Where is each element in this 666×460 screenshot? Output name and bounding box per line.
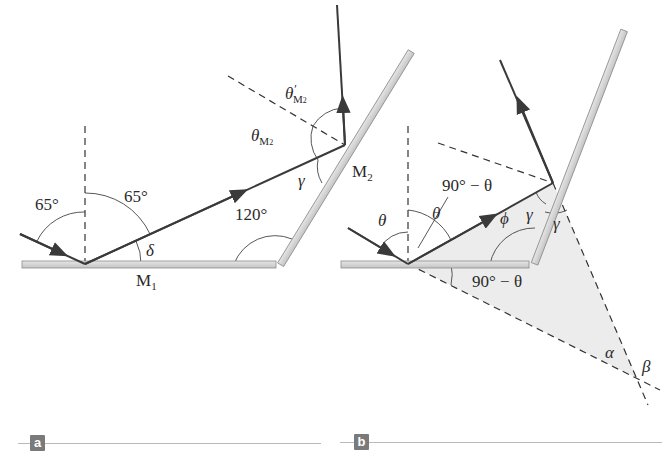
- label-theta-reflected: θ: [432, 205, 440, 222]
- arc-theta-out: [408, 210, 451, 240]
- outgoing-ray-arrow: [343, 104, 345, 145]
- shaded-region: [408, 183, 637, 378]
- arc-theta-m2: [311, 126, 318, 160]
- label-gamma-outer: γ: [553, 215, 560, 232]
- panel-a-rule: [18, 443, 321, 444]
- mirror-m1-subscript: 1: [151, 280, 157, 292]
- mirror-m2-subscript: 2: [367, 171, 373, 183]
- label-gamma-inner: γ: [526, 206, 533, 223]
- mirror-m1-b: [341, 261, 529, 268]
- ray-to-m2-arrow: [85, 193, 240, 264]
- label-gamma: γ: [298, 172, 305, 189]
- arc-incidence: [37, 212, 85, 241]
- label-reflection-angle: 65°: [124, 188, 148, 205]
- theta-m2-subscript: M2: [259, 135, 273, 147]
- outgoing-ray-b-arrow: [520, 104, 553, 183]
- diagram-canvas: [0, 0, 666, 460]
- label-phi: ϕ: [500, 210, 509, 227]
- label-delta: δ: [146, 242, 154, 259]
- mirror-m1-letter: M: [136, 271, 151, 290]
- panel-b-rule: [340, 442, 662, 443]
- label-theta-prime-m2: θ′M2: [285, 85, 307, 102]
- mirror-m2-b: [531, 29, 627, 265]
- arc-theta-in: [380, 232, 408, 248]
- gamma-symbol: γ: [298, 171, 305, 190]
- mirror-m2: [278, 50, 415, 267]
- panel-a-tag: a: [30, 435, 45, 451]
- panel-b-tag: b: [354, 434, 369, 450]
- label-theta-incident: θ: [378, 212, 386, 229]
- incident-ray-arrow: [20, 234, 60, 253]
- arc-theta-prime-m2: [313, 108, 342, 126]
- mirror-m2-letter: M: [352, 162, 367, 181]
- incident-ray-b-arrow: [348, 228, 388, 252]
- label-mirror-m1: M1: [136, 272, 157, 289]
- label-theta-m2: θM2: [251, 127, 273, 144]
- theta-prime-subscript: M2: [293, 93, 307, 105]
- panel-a: [20, 5, 414, 268]
- mirror-m1: [22, 261, 276, 268]
- label-mirror-m2: M2: [352, 163, 373, 180]
- delta-symbol: δ: [146, 241, 154, 260]
- label-90-minus-theta-bottom: 90° − θ: [472, 273, 522, 290]
- label-120: 120°: [235, 206, 267, 223]
- arc-gamma: [317, 160, 322, 183]
- label-alpha: α: [605, 344, 614, 361]
- arc-delta: [136, 241, 141, 264]
- label-beta: β: [642, 358, 650, 375]
- label-incidence-angle: 65°: [35, 196, 59, 213]
- label-90-minus-theta-top: 90° − θ: [442, 177, 492, 194]
